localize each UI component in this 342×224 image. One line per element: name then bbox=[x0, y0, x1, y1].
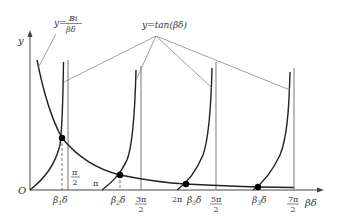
tan-leader-4 bbox=[156, 36, 290, 90]
tan-branch-3 bbox=[177, 68, 212, 190]
tan-label: y=tan(βδ) bbox=[141, 20, 188, 30]
root-label-2: β2δ bbox=[110, 195, 125, 206]
tick-5pi-half-num: 5π bbox=[211, 195, 221, 204]
tick-7pi-half-den: 2 bbox=[291, 205, 296, 214]
hyperbola-label-prefix: y= bbox=[53, 18, 67, 28]
tan-leader-2 bbox=[136, 36, 156, 80]
x-axis-label: βδ bbox=[304, 197, 317, 208]
hyperbola-leader bbox=[38, 34, 56, 68]
tick-pi-half-den: 2 bbox=[73, 178, 78, 187]
tan-leader-3 bbox=[156, 36, 212, 88]
tick-7pi-half-num: 7π bbox=[288, 195, 298, 204]
origin-label: O bbox=[18, 185, 26, 196]
hyperbola-label-den: βδ bbox=[65, 25, 76, 34]
diagram-canvas: y O βδ y= Bi βδ y=tan(βδ) π 2 π 3π 2 2π … bbox=[0, 0, 342, 224]
hyperbola-label-num: Bi bbox=[68, 14, 78, 23]
tick-3pi-half-den: 2 bbox=[139, 205, 144, 214]
root-label-3: β3δ bbox=[186, 195, 201, 206]
tan-branch-4 bbox=[253, 72, 290, 190]
root-label-4: β3δ bbox=[251, 195, 266, 206]
root-point-3 bbox=[183, 181, 189, 187]
tan-branch-1 bbox=[30, 62, 64, 190]
root-point-2 bbox=[117, 172, 123, 178]
tan-leader-1 bbox=[64, 36, 156, 82]
plot-svg: y O βδ y= Bi βδ y=tan(βδ) π 2 π 3π 2 2π … bbox=[0, 0, 342, 224]
y-axis-arrow-icon bbox=[28, 30, 33, 37]
root-point-1 bbox=[59, 135, 65, 141]
tick-pi: π bbox=[93, 179, 98, 188]
x-axis-arrow-icon bbox=[317, 188, 324, 193]
tick-3pi-half-num: 3π bbox=[136, 195, 146, 204]
root-label-1: β1δ bbox=[52, 195, 67, 206]
tick-5pi-half-den: 2 bbox=[214, 205, 219, 214]
tick-pi-half-num: π bbox=[72, 168, 77, 177]
root-point-4 bbox=[255, 184, 261, 190]
y-axis-label: y bbox=[17, 35, 24, 46]
tick-2pi: 2π bbox=[172, 195, 182, 204]
